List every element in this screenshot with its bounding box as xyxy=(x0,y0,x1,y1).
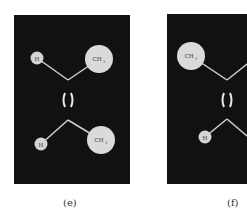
svg-text:H: H xyxy=(39,142,44,148)
svg-text:CH: CH xyxy=(184,53,193,59)
svg-text:3: 3 xyxy=(195,57,197,61)
bond-line xyxy=(227,119,247,136)
svg-text:CH: CH xyxy=(92,56,101,62)
cis-2-butene-model: H CH 3 H CH 3 xyxy=(14,15,130,184)
atom-h-bottom-left: H xyxy=(199,131,212,144)
atom-h-bottom-left: H xyxy=(35,138,48,151)
atom-ch3-top-left: CH 3 xyxy=(177,42,205,70)
double-bond-left xyxy=(223,93,225,107)
molecule-panel-e: H CH 3 H CH 3 xyxy=(14,15,130,184)
svg-text:3: 3 xyxy=(105,141,107,145)
svg-text:3: 3 xyxy=(103,60,105,64)
svg-text:H: H xyxy=(203,135,208,141)
atom-h-top-left: H xyxy=(31,52,44,65)
double-bond-right xyxy=(230,93,232,107)
svg-text:H: H xyxy=(35,56,40,62)
caption-e: (e) xyxy=(63,197,77,208)
double-bond-right xyxy=(71,93,73,107)
atom-ch3-top-right: CH 3 xyxy=(85,45,113,73)
caption-f: (f) xyxy=(227,197,239,208)
molecule-panel-f: CH 3 H xyxy=(167,14,247,184)
trans-2-butene-model: CH 3 H xyxy=(167,14,247,184)
bond-line xyxy=(227,64,247,80)
svg-text:CH: CH xyxy=(94,137,103,143)
double-bond-left xyxy=(64,93,66,107)
atom-ch3-bottom-right: CH 3 xyxy=(87,126,115,154)
